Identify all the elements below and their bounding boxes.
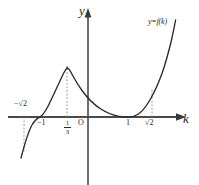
y-axis-label: y — [79, 4, 85, 17]
tick-label-one-third: 1 3 — [61, 119, 74, 137]
fraction-denominator: 3 — [61, 128, 74, 137]
origin-label: O — [78, 119, 84, 127]
x-axis — [8, 113, 186, 121]
tick-label-neg-sqrt2: −√2 — [14, 100, 27, 108]
tick-label-neg-one: −1 — [37, 119, 46, 127]
y-axis — [85, 8, 92, 185]
tick-label-one: 1 — [126, 119, 130, 127]
tick-label-sqrt2: √2 — [145, 119, 153, 127]
function-graph-figure — [0, 0, 199, 185]
y-axis-arrowhead — [85, 8, 92, 18]
curve-equation-label: y=f(k) — [148, 18, 167, 26]
function-curve — [21, 20, 176, 158]
fraction-numerator: 1 — [61, 119, 74, 127]
x-axis-label: k — [183, 112, 189, 125]
